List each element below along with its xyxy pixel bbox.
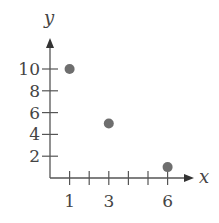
x-tick-label: 3 xyxy=(103,191,114,211)
y-axis-arrow-icon xyxy=(46,38,54,48)
y-axis-label: y xyxy=(43,7,55,28)
y-tick-label: 6 xyxy=(29,103,40,123)
y-tick-label: 10 xyxy=(18,59,40,79)
x-axis-label: x xyxy=(199,166,209,187)
y-tick-label: 2 xyxy=(29,146,40,166)
y-tick-label: 4 xyxy=(29,124,40,144)
x-tick-label: 1 xyxy=(64,191,75,211)
x-axis-arrow-icon xyxy=(184,174,194,182)
x-tick-label: 6 xyxy=(162,191,173,211)
y-tick-label: 8 xyxy=(29,81,40,101)
data-point xyxy=(163,162,173,172)
data-point xyxy=(65,64,75,74)
data-point xyxy=(104,119,114,129)
scatter-chart: xy136246810 xyxy=(0,0,219,223)
